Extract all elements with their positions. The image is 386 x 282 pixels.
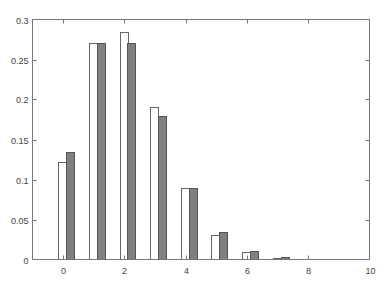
x-tick-label: 2 [122,266,127,276]
bar-series-gray-6 [251,252,259,260]
x-tick-label: 6 [245,266,250,276]
y-tick-label: 0 [23,256,28,266]
bar-series-white-5 [212,236,220,260]
bar-series-white-0 [59,163,67,260]
bars-layer [59,33,290,260]
bar-chart: 0246810 00.050.10.150.20.250.3 [0,0,386,282]
bar-series-gray-4 [190,189,198,260]
bar-series-gray-0 [67,153,75,260]
y-tick-label: 0.05 [11,216,29,226]
bar-series-white-6 [243,253,251,260]
x-tick-label: 0 [61,266,66,276]
y-tick-label: 0.25 [11,56,29,66]
x-tick-label: 10 [365,266,375,276]
bar-series-gray-1 [98,44,106,260]
x-tick-label: 8 [306,266,311,276]
y-tick-label: 0.1 [16,176,29,186]
bar-series-white-3 [151,108,159,260]
y-tick-label: 0.3 [16,16,29,26]
bar-series-gray-3 [159,117,167,260]
y-tick-label: 0.2 [16,95,29,105]
bar-series-white-4 [182,189,190,260]
y-tick-label: 0.15 [11,136,29,146]
x-tick-label: 4 [184,266,189,276]
bar-series-white-1 [90,44,98,260]
bar-series-gray-2 [128,44,136,260]
plot-frame [33,20,370,260]
bar-series-gray-5 [220,233,228,260]
